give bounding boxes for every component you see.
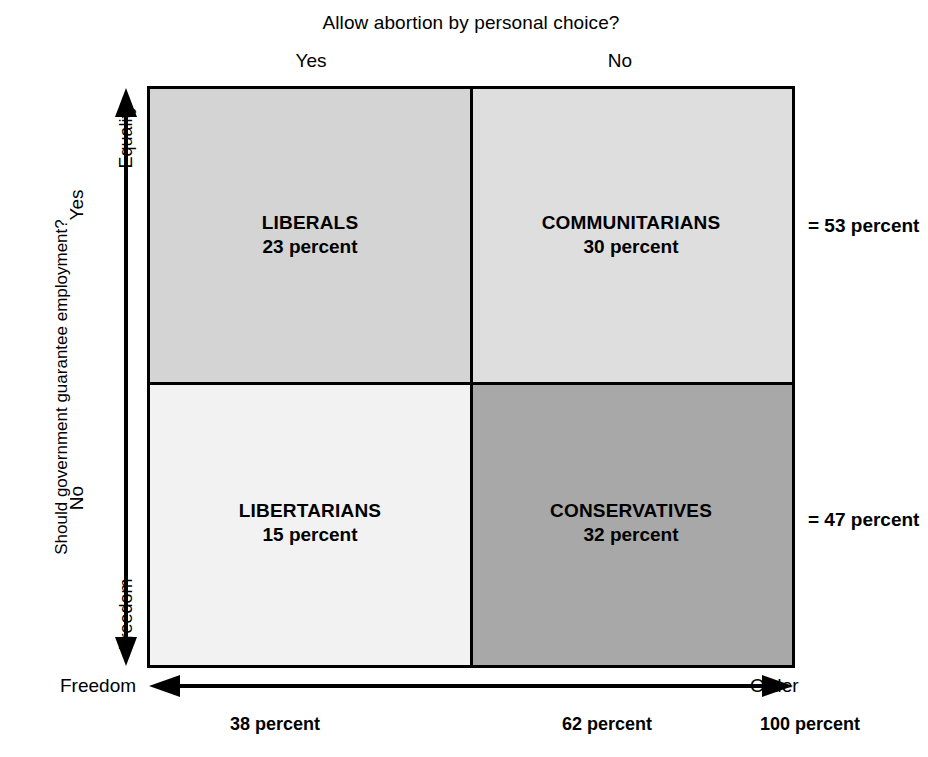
column-question: Allow abortion by personal choice? [147, 12, 795, 34]
matrix-cell-communitarians[interactable]: COMMUNITARIANS 30 percent [470, 89, 792, 382]
cell-label-communitarians: COMMUNITARIANS [542, 211, 721, 235]
row-total-bottom: = 47 percent [808, 509, 919, 531]
column-header-yes: Yes [251, 50, 371, 72]
typology-matrix: LIBERALS 23 percent COMMUNITARIANS 30 pe… [147, 86, 795, 668]
matrix-cell-conservatives[interactable]: CONSERVATIVES 32 percent [470, 382, 792, 665]
cell-value-communitarians: 30 percent [583, 235, 678, 260]
row-header-yes: Yes [66, 160, 88, 250]
x-axis-label-freedom: Freedom [60, 675, 136, 697]
x-axis-double-arrow-icon [147, 672, 795, 702]
column-total-left: 38 percent [195, 714, 355, 735]
matrix-horizontal-divider [150, 382, 792, 385]
row-header-no: No [66, 453, 88, 543]
cell-value-libertarians: 15 percent [262, 523, 357, 548]
column-total-right: 62 percent [527, 714, 687, 735]
cell-label-libertarians: LIBERTARIANS [239, 499, 381, 523]
matrix-cell-libertarians[interactable]: LIBERTARIANS 15 percent [150, 382, 470, 665]
row-total-top: = 53 percent [808, 215, 919, 237]
y-axis-double-arrow-icon [113, 86, 139, 668]
cell-label-liberals: LIBERALS [262, 211, 359, 235]
matrix-cell-liberals[interactable]: LIBERALS 23 percent [150, 89, 470, 382]
cell-label-conservatives: CONSERVATIVES [550, 499, 712, 523]
cell-value-conservatives: 32 percent [583, 523, 678, 548]
grand-total: 100 percent [760, 714, 920, 735]
column-header-no: No [560, 50, 680, 72]
cell-value-liberals: 23 percent [262, 235, 357, 260]
matrix-vertical-divider [470, 89, 473, 665]
